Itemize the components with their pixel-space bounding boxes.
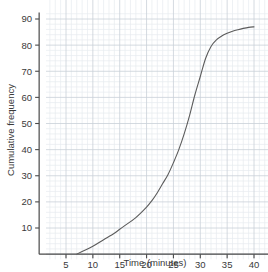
chart-background (0, 0, 268, 272)
x-tick-label: 30 (195, 259, 206, 270)
y-tick-label: 40 (22, 144, 33, 155)
x-tick-label: 5 (63, 259, 68, 270)
x-axis-title: Time (minutes) (124, 257, 187, 268)
x-tick-label: 40 (249, 259, 260, 270)
y-tick-label: 30 (22, 170, 33, 181)
y-tick-label: 80 (22, 40, 33, 51)
x-tick-label: 35 (222, 259, 233, 270)
y-tick-label: 90 (22, 13, 33, 24)
chart-canvas: 510152025303540 102030405060708090 Time … (0, 0, 268, 272)
y-tick-label: 10 (22, 222, 33, 233)
y-tick-label: 50 (22, 118, 33, 129)
y-axis-title: Cumulative frequency (5, 84, 16, 176)
y-axis-tick-labels: 102030405060708090 (22, 13, 33, 233)
y-tick-label: 60 (22, 92, 33, 103)
cumulative-frequency-chart: 510152025303540 102030405060708090 Time … (0, 0, 268, 272)
y-tick-label: 20 (22, 196, 33, 207)
x-tick-label: 10 (88, 259, 99, 270)
y-tick-label: 70 (22, 66, 33, 77)
